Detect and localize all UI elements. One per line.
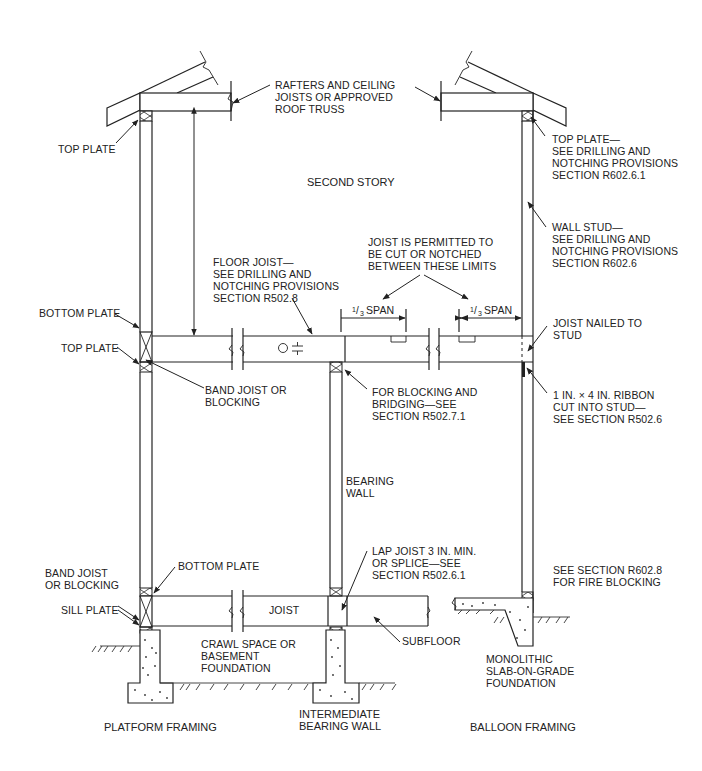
svg-text:SLAB-ON-GRADE: SLAB-ON-GRADE bbox=[486, 665, 574, 677]
svg-text:NOTCHING PROVISIONS: NOTCHING PROVISIONS bbox=[213, 280, 339, 292]
svg-text:WALL: WALL bbox=[346, 487, 375, 499]
svg-text:SECTION R602.6.1: SECTION R602.6.1 bbox=[552, 169, 646, 181]
title-balloon-framing: BALLOON FRAMING bbox=[470, 721, 576, 733]
svg-text:OR SPLICE—SEE: OR SPLICE—SEE bbox=[372, 557, 461, 569]
svg-text:3: 3 bbox=[360, 310, 364, 317]
label-span-left: 1 / 3 SPAN bbox=[352, 304, 394, 317]
svg-text:SEE DRILLING AND: SEE DRILLING AND bbox=[552, 233, 651, 245]
title-platform-framing: PLATFORM FRAMING bbox=[104, 721, 217, 733]
svg-text:BAND JOIST OR: BAND JOIST OR bbox=[205, 384, 287, 396]
label-monolithic: MONOLITHIC SLAB-ON-GRADE FOUNDATION bbox=[486, 653, 574, 689]
svg-text:BLOCKING: BLOCKING bbox=[205, 396, 260, 408]
svg-text:NOTCHING PROVISIONS: NOTCHING PROVISIONS bbox=[552, 245, 678, 257]
svg-text:SPAN: SPAN bbox=[484, 304, 512, 316]
label-joist-nailed: JOIST NAILED TO STUD bbox=[553, 317, 642, 341]
svg-text:SECTION R502.8: SECTION R502.8 bbox=[213, 292, 298, 304]
svg-text:OR BLOCKING: OR BLOCKING bbox=[45, 579, 119, 591]
svg-text:SEE DRILLING AND: SEE DRILLING AND bbox=[213, 268, 312, 280]
svg-text:SECTION R602.6: SECTION R602.6 bbox=[552, 257, 637, 269]
label-second-story: SECOND STORY bbox=[307, 176, 395, 188]
label-band-joist-lower: BAND JOIST OR BLOCKING bbox=[45, 567, 119, 591]
label-span-right: 1 / 3 SPAN bbox=[470, 304, 512, 317]
svg-text:SPAN: SPAN bbox=[366, 304, 394, 316]
svg-text:JOISTS OR APPROVED: JOISTS OR APPROVED bbox=[275, 91, 393, 103]
svg-text:ROOF TRUSS: ROOF TRUSS bbox=[275, 103, 345, 115]
svg-text:RAFTERS AND CEILING: RAFTERS AND CEILING bbox=[275, 79, 395, 91]
svg-text:WALL STUD—: WALL STUD— bbox=[552, 221, 623, 233]
label-bottom-plate-lower: BOTTOM PLATE bbox=[178, 560, 259, 572]
svg-text:NOTCHING PROVISIONS: NOTCHING PROVISIONS bbox=[552, 157, 678, 169]
label-top-plate-left: TOP PLATE bbox=[58, 143, 116, 155]
svg-text:FOUNDATION: FOUNDATION bbox=[201, 662, 271, 674]
svg-text:SECTION R502.7.1: SECTION R502.7.1 bbox=[372, 410, 466, 422]
svg-text:BEARING: BEARING bbox=[346, 475, 394, 487]
label-top-plate-right: TOP PLATE— SEE DRILLING AND NOTCHING PRO… bbox=[552, 133, 678, 181]
label-floor-joist: FLOOR JOIST— SEE DRILLING AND NOTCHING P… bbox=[213, 256, 339, 304]
svg-text:BETWEEN THESE LIMITS: BETWEEN THESE LIMITS bbox=[368, 260, 496, 272]
svg-text:FOUNDATION: FOUNDATION bbox=[486, 677, 556, 689]
roof-left bbox=[107, 51, 233, 126]
roof-right bbox=[441, 51, 566, 126]
label-sill-plate: SILL PLATE bbox=[61, 604, 119, 616]
svg-text:BEARING WALL: BEARING WALL bbox=[299, 720, 381, 732]
svg-text:SEE SECTION R602.8: SEE SECTION R602.8 bbox=[553, 564, 662, 576]
intermediate-foundation bbox=[313, 630, 359, 703]
svg-text:FOR FIRE BLOCKING: FOR FIRE BLOCKING bbox=[553, 576, 661, 588]
label-lap-joist: LAP JOIST 3 IN. MIN. OR SPLICE—SEE SECTI… bbox=[372, 545, 476, 581]
label-wall-stud: WALL STUD— SEE DRILLING AND NOTCHING PRO… bbox=[552, 221, 678, 269]
intermediate-bearing-wall bbox=[330, 362, 342, 633]
platform-wall-left bbox=[140, 111, 152, 633]
svg-text:JOIST NAILED TO: JOIST NAILED TO bbox=[553, 317, 642, 329]
label-joist: JOIST bbox=[269, 604, 300, 616]
label-top-plate-mid: TOP PLATE bbox=[61, 342, 119, 354]
svg-text:FLOOR JOIST—: FLOOR JOIST— bbox=[213, 256, 294, 268]
label-fire-blocking: SEE SECTION R602.8 FOR FIRE BLOCKING bbox=[553, 564, 662, 588]
svg-text:BE CUT OR NOTCHED: BE CUT OR NOTCHED bbox=[368, 248, 482, 260]
svg-text:MONOLITHIC: MONOLITHIC bbox=[486, 653, 553, 665]
label-bottom-plate-upper: BOTTOM PLATE bbox=[39, 307, 120, 319]
svg-text:LAP JOIST 3 IN. MIN.: LAP JOIST 3 IN. MIN. bbox=[372, 545, 476, 557]
svg-text:SEE SECTION R502.6: SEE SECTION R502.6 bbox=[553, 413, 662, 425]
svg-text:STUD: STUD bbox=[553, 329, 582, 341]
svg-text:TOP PLATE—: TOP PLATE— bbox=[552, 133, 621, 145]
label-joist-permitted: JOIST IS PERMITTED TO BE CUT OR NOTCHED … bbox=[368, 236, 496, 272]
svg-text:BASEMENT: BASEMENT bbox=[201, 650, 260, 662]
svg-text:JOIST IS PERMITTED TO: JOIST IS PERMITTED TO bbox=[368, 236, 493, 248]
svg-text:BAND JOIST: BAND JOIST bbox=[45, 567, 108, 579]
slab-foundation bbox=[452, 598, 533, 646]
svg-text:FOR BLOCKING AND: FOR BLOCKING AND bbox=[372, 386, 478, 398]
svg-text:SEE DRILLING AND: SEE DRILLING AND bbox=[552, 145, 651, 157]
svg-text:BRIDGING—SEE: BRIDGING—SEE bbox=[372, 398, 457, 410]
title-intermediate-bearing-wall: INTERMEDIATE BEARING WALL bbox=[299, 708, 381, 732]
svg-text:/: / bbox=[474, 305, 477, 316]
label-subfloor: SUBFLOOR bbox=[402, 635, 461, 647]
svg-text:SECTION R502.6.1: SECTION R502.6.1 bbox=[372, 569, 466, 581]
label-crawl-space: CRAWL SPACE OR BASEMENT FOUNDATION bbox=[201, 638, 296, 674]
label-bearing-wall: BEARING WALL bbox=[346, 475, 394, 499]
framing-diagram: RAFTERS AND CEILING JOISTS OR APPROVED R… bbox=[0, 0, 702, 771]
svg-text:INTERMEDIATE: INTERMEDIATE bbox=[299, 708, 380, 720]
svg-text:CUT INTO STUD—: CUT INTO STUD— bbox=[553, 401, 646, 413]
svg-text:3: 3 bbox=[478, 310, 482, 317]
svg-text:/: / bbox=[356, 305, 359, 316]
label-ribbon: 1 IN. × 4 IN. RIBBON CUT INTO STUD— SEE … bbox=[553, 389, 662, 425]
label-blocking-bridging: FOR BLOCKING AND BRIDGING—SEE SECTION R5… bbox=[372, 386, 478, 422]
svg-text:1 IN. × 4 IN. RIBBON: 1 IN. × 4 IN. RIBBON bbox=[553, 389, 655, 401]
label-band-joist-upper: BAND JOIST OR BLOCKING bbox=[205, 384, 287, 408]
label-rafters: RAFTERS AND CEILING JOISTS OR APPROVED R… bbox=[275, 79, 395, 115]
svg-text:CRAWL SPACE OR: CRAWL SPACE OR bbox=[201, 638, 296, 650]
